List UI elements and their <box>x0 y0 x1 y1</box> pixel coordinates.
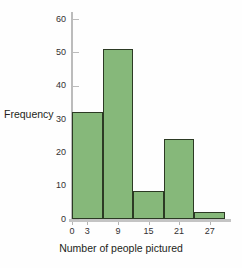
x-tick-label: 15 <box>139 226 159 236</box>
x-axis-line <box>69 219 231 222</box>
x-axis-title: Number of people pictured <box>0 242 242 254</box>
histogram-chart: 0102030405060 039152127 Frequency Number… <box>0 0 242 268</box>
y-tick-label: 60 <box>44 15 66 24</box>
x-tick-mark <box>149 222 150 225</box>
y-tick-label: 40 <box>44 81 66 90</box>
x-tick-mark <box>179 222 180 225</box>
x-tick-label: 3 <box>77 226 97 236</box>
x-tick-label: 21 <box>169 226 189 236</box>
y-tick-label: 50 <box>44 48 66 57</box>
x-tick-mark <box>118 222 119 225</box>
histogram-bar <box>72 112 103 219</box>
plot-area <box>72 19 225 219</box>
histogram-bar <box>103 49 134 219</box>
y-tick-label: 0 <box>44 215 66 224</box>
y-tick-label: 20 <box>44 148 66 157</box>
histogram-bar <box>164 139 195 219</box>
x-tick-label: 27 <box>200 226 220 236</box>
x-tick-mark <box>210 222 211 225</box>
y-tick-mark <box>73 219 79 220</box>
histogram-bar <box>194 212 225 219</box>
y-tick-label: 10 <box>44 181 66 190</box>
x-tick-label: 9 <box>108 226 128 236</box>
y-axis-title: Frequency <box>4 108 54 120</box>
x-tick-mark <box>87 222 88 225</box>
x-tick-mark <box>72 222 73 225</box>
histogram-bar <box>133 191 164 219</box>
